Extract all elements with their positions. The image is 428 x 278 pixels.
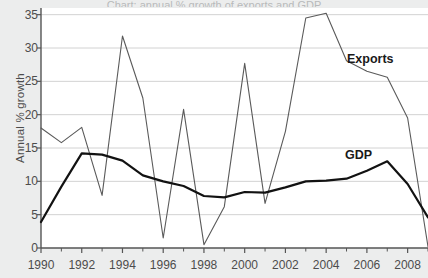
y-tick-label: 15 [16, 141, 38, 155]
series-label-exports: Exports [347, 52, 394, 66]
chart-figure: Chart: annual % growth of exports and GD… [0, 0, 428, 278]
x-tick-label: 2004 [304, 258, 348, 272]
x-tick-label: 2000 [223, 258, 267, 272]
x-tick-label: 2002 [263, 258, 307, 272]
x-tick-label: 1994 [100, 258, 144, 272]
series-label-gdp: GDP [345, 148, 372, 162]
x-tick-label: 1996 [141, 258, 185, 272]
chart-title-cropped: Chart: annual % growth of exports and GD… [0, 0, 428, 7]
y-tick-label: 30 [16, 41, 38, 55]
plot-canvas [0, 0, 428, 278]
x-tick-label: 1992 [60, 258, 104, 272]
y-tick-label: 25 [16, 74, 38, 88]
y-tick-label: 10 [16, 174, 38, 188]
y-tick-label: 0 [16, 241, 38, 255]
y-tick-label: 20 [16, 108, 38, 122]
y-axis-tick-labels: 05101520253035 [12, 0, 38, 278]
x-tick-label: 1998 [182, 258, 226, 272]
x-tick-label: 2006 [345, 258, 389, 272]
x-tick-label: 2008 [386, 258, 428, 272]
x-tick-label: 1990 [19, 258, 63, 272]
y-tick-label: 35 [16, 8, 38, 22]
plot-background [41, 8, 428, 248]
y-tick-label: 5 [16, 208, 38, 222]
